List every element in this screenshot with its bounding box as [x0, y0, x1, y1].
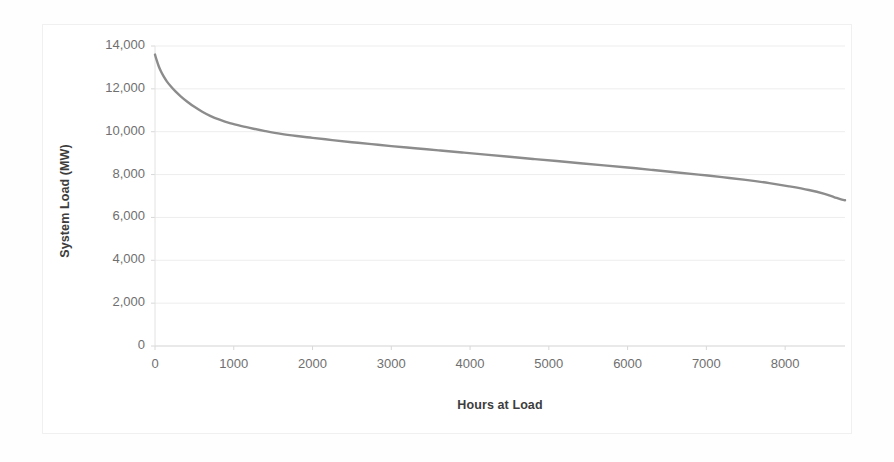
y-tick-label: 8,000 — [77, 166, 145, 181]
x-tick-label: 7000 — [671, 356, 741, 371]
y-tick-label: 4,000 — [77, 251, 145, 266]
gridlines-group — [155, 46, 845, 346]
y-axis-title-text: System Load (MW) — [58, 144, 72, 257]
y-tick-label: 2,000 — [77, 294, 145, 309]
chart-figure: 02,0004,0006,0008,00010,00012,00014,000 … — [0, 0, 894, 462]
y-tick-label: 12,000 — [77, 80, 145, 95]
tickmarks-group — [151, 46, 785, 350]
x-tick-label: 2000 — [278, 356, 348, 371]
x-tick-label: 3000 — [356, 356, 426, 371]
x-tick-label: 8000 — [750, 356, 820, 371]
x-tick-label: 0 — [120, 356, 190, 371]
load-duration-chart — [0, 0, 894, 462]
y-axis-title: System Load (MW) — [54, 96, 76, 306]
load-duration-curve — [155, 55, 845, 201]
y-tick-label: 14,000 — [77, 37, 145, 52]
y-tick-label: 0 — [77, 337, 145, 352]
x-axis-title: Hours at Load — [155, 398, 845, 412]
y-tick-label: 6,000 — [77, 208, 145, 223]
y-tick-label: 10,000 — [77, 123, 145, 138]
x-tick-label: 1000 — [199, 356, 269, 371]
x-tick-label: 6000 — [593, 356, 663, 371]
x-tick-label: 5000 — [514, 356, 584, 371]
x-tick-label: 4000 — [435, 356, 505, 371]
